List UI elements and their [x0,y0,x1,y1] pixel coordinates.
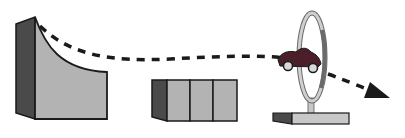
blocks [152,80,237,121]
ramp [16,17,107,119]
trajectory-dashed-line-exit [328,74,370,90]
trajectory-dashed-line [40,26,285,60]
ramp-side-face [16,17,35,119]
arrowhead-icon [364,82,390,98]
base-top [292,113,349,124]
car-wheel-rear [309,64,318,73]
blocks-side-face [152,80,167,121]
car-wheel-front [284,62,293,71]
base-side-face [273,113,292,124]
block-1 [167,80,190,121]
block-2 [190,80,213,121]
block-3 [213,80,237,121]
diagram-canvas [0,0,405,138]
diagram-stage [0,0,405,138]
ramp-front-face [35,17,107,119]
